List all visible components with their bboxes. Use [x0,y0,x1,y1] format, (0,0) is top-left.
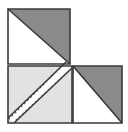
geometric-figure [0,0,128,132]
figure-container [0,0,128,132]
